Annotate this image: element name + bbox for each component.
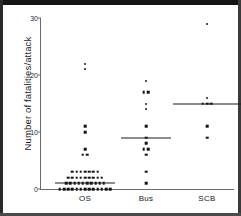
data-point: [71, 176, 74, 179]
data-point: [75, 188, 78, 191]
data-point: [82, 154, 85, 157]
data-point: [63, 188, 66, 191]
data-point: [84, 68, 86, 70]
data-point: [80, 176, 83, 179]
median-line-scb: [173, 103, 241, 104]
data-point: [92, 188, 95, 191]
data-point: [84, 63, 86, 65]
data-point: [84, 125, 87, 128]
data-point: [145, 80, 147, 82]
x-tick-label-scb: SCB: [198, 194, 215, 203]
data-point: [145, 125, 148, 128]
data-point: [145, 182, 148, 185]
scan-edge-bottom: [0, 213, 241, 216]
data-point: [88, 176, 91, 179]
y-tick-mark-10: [38, 132, 41, 133]
data-point: [88, 188, 91, 191]
data-point: [84, 176, 87, 179]
data-point: [59, 188, 62, 191]
x-tick-label-os: OS: [79, 194, 91, 203]
median-line-os: [55, 183, 115, 184]
data-point: [143, 148, 146, 151]
data-point: [84, 131, 87, 134]
data-point: [145, 108, 147, 110]
data-point: [71, 171, 74, 174]
data-point: [96, 171, 99, 174]
median-line-bus: [121, 137, 171, 138]
data-point: [145, 171, 148, 174]
scan-edge-top: [0, 0, 241, 5]
y-tick-mark-20: [38, 75, 41, 76]
plot-area: 0102030 OSBusSCB: [41, 18, 234, 189]
data-point: [67, 188, 70, 191]
data-point: [206, 97, 208, 99]
data-point: [147, 91, 150, 94]
data-point: [101, 176, 104, 179]
data-point: [206, 125, 209, 128]
data-point: [88, 171, 91, 174]
data-point: [145, 103, 147, 105]
data-point: [96, 176, 99, 179]
data-point: [206, 23, 208, 25]
figure-scatter-plot: Number of fatalities/attack 0102030 OSBu…: [0, 0, 241, 216]
data-point: [92, 171, 95, 174]
data-point: [92, 176, 95, 179]
data-point: [84, 188, 87, 191]
data-point: [147, 148, 150, 151]
y-tick-mark-0: [38, 189, 41, 190]
data-point: [75, 176, 78, 179]
data-point: [67, 176, 70, 179]
scan-edge-right: [238, 0, 241, 216]
data-point: [109, 188, 112, 191]
y-axis-label: Number of fatalities/attack: [22, 19, 33, 169]
data-point: [96, 188, 99, 191]
data-point: [75, 171, 78, 174]
data-point: [105, 188, 108, 191]
data-point: [143, 91, 146, 94]
data-point: [80, 188, 83, 191]
data-point: [145, 154, 148, 157]
scan-edge-left: [0, 0, 3, 216]
data-point: [86, 154, 89, 157]
data-point: [206, 136, 209, 139]
data-point: [145, 142, 148, 145]
data-point: [71, 188, 74, 191]
data-point: [101, 188, 104, 191]
data-point: [80, 171, 83, 174]
x-tick-label-bus: Bus: [139, 194, 154, 203]
data-point: [84, 148, 87, 151]
y-tick-mark-30: [38, 18, 41, 19]
data-point: [84, 171, 87, 174]
